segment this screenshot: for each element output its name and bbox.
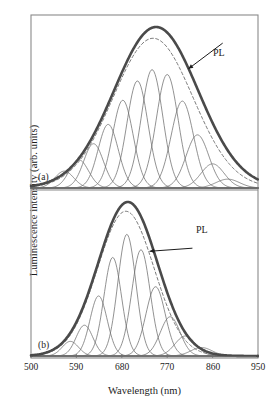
photoluminescence-figure: Luminescence intensity (arb. units) Wave… bbox=[0, 0, 274, 410]
spectra-plot-canvas bbox=[0, 0, 274, 410]
